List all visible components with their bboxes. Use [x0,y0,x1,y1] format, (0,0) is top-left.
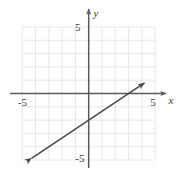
y-tick-label-top: 5 [75,21,81,33]
x-tick-label-right: 5 [150,96,156,108]
y-tick-label-bottom: -5 [75,152,85,164]
y-axis-label: y [93,7,99,19]
coordinate-plane-svg: 5 -5 -5 5 y x [0,0,181,174]
coordinate-plane-figure: 5 -5 -5 5 y x [0,0,181,174]
x-tick-label-left: -5 [18,96,28,108]
x-axis-label: x [168,94,174,106]
